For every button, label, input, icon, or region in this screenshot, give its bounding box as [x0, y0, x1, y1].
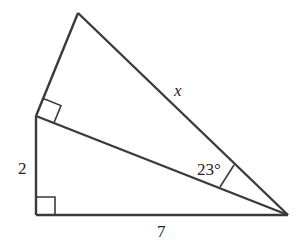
- label-x: x: [173, 81, 182, 100]
- edge-apex-to-middle-left: [36, 13, 78, 116]
- label-7: 7: [157, 222, 166, 241]
- right-angle-marker-bottom-left: [36, 197, 55, 215]
- triangle-diagram: x 2 7 23°: [0, 0, 305, 252]
- edge-apex-to-right-x: [78, 13, 288, 215]
- label-angle-23: 23°: [197, 160, 221, 179]
- label-2: 2: [18, 159, 27, 178]
- angle-marker-23: [220, 165, 234, 187]
- edge-middle-left-to-right: [36, 116, 288, 215]
